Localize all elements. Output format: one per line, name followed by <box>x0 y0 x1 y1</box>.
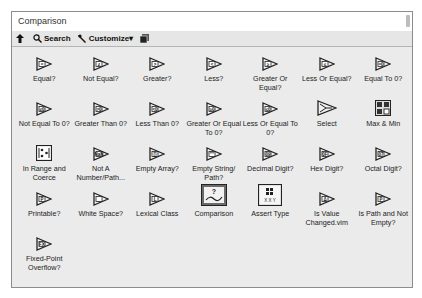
palette-item-fixed-point-overflow[interactable]: FXFixed-Point Overflow? <box>16 233 73 278</box>
svg-text:[]: [] <box>154 152 157 157</box>
palette-item-select[interactable]: Select <box>299 98 356 143</box>
palette-item-decimal-digit[interactable]: 09Decimal Digit? <box>242 143 299 188</box>
svg-text:<: < <box>210 62 213 67</box>
palette-item-label: Max & Min <box>355 119 411 128</box>
not-equal-icon: ≠ <box>93 53 109 71</box>
assert-type-icon: X X Y <box>258 188 282 206</box>
palette-item-not-equal[interactable]: ≠Not Equal? <box>73 53 130 98</box>
is-value-changed-icon: Δ <box>319 188 335 206</box>
svg-text:=: = <box>41 62 44 67</box>
palette-item-label: Not Equal? <box>73 74 129 83</box>
palette-item-label: Not Equal To 0? <box>16 119 72 128</box>
fixed-point-overflow-icon: FX <box>36 233 52 251</box>
equal-to-zero-icon: =0 <box>375 53 391 71</box>
decimal-digit-icon: 09 <box>262 143 278 161</box>
less-than-zero-icon: <0 <box>149 98 165 116</box>
svg-text:=0: =0 <box>379 62 385 67</box>
palette-item-label: White Space? <box>73 209 129 218</box>
palette-item-label: Decimal Digit? <box>242 164 298 173</box>
title-bar: Comparison <box>12 12 412 32</box>
palette-item-not-equal-to-zero[interactable]: ≠0Not Equal To 0? <box>16 98 73 143</box>
palette-item-label: Is Path and Not Empty? <box>355 209 411 227</box>
search-icon <box>33 34 42 43</box>
lexical-class-icon: L <box>149 188 165 206</box>
palette-item-equal[interactable]: =Equal? <box>16 53 73 98</box>
greater-or-equal-icon: ≥ <box>262 53 278 71</box>
greater-or-equal-zero-icon: ≥0 <box>206 98 222 116</box>
palette-item-greater[interactable]: >Greater? <box>129 53 186 98</box>
palette-item-less-or-equal[interactable]: ≤Less Or Equal? <box>299 53 356 98</box>
palette-item-comparison-express[interactable]: ?Comparison <box>186 188 243 233</box>
palette-item-label: Less Than 0? <box>129 119 185 128</box>
palette-item-empty-string-path[interactable]: ""Empty String/ Path? <box>186 143 243 188</box>
palette-item-empty-array[interactable]: []Empty Array? <box>129 143 186 188</box>
svg-text:>: > <box>154 62 157 67</box>
palette-window: Comparison Search Customize▾ =Equal?≠Not… <box>11 11 413 288</box>
palette-item-label: Printable? <box>16 209 72 218</box>
not-equal-to-zero-icon: ≠0 <box>36 98 52 116</box>
palette-item-label: Octal Digit? <box>355 164 411 173</box>
svg-text:09: 09 <box>266 152 272 157</box>
svg-text:P: P <box>380 197 383 202</box>
svg-text:>0: >0 <box>96 107 102 112</box>
svg-text:L: L <box>154 197 157 202</box>
palette-item-less-or-equal-zero[interactable]: ≤0Less Or Equal To 0? <box>242 98 299 143</box>
svg-text:_: _ <box>96 197 100 202</box>
palette-item-label: Greater Or Equal? <box>242 74 298 92</box>
toolbar: Search Customize▾ <box>12 31 412 47</box>
svg-text:"": "" <box>210 152 214 157</box>
palette-item-label: Comparison <box>186 209 242 218</box>
palette-item-label: Empty String/ Path? <box>186 164 242 182</box>
palette-item-greater-than-zero[interactable]: >0Greater Than 0? <box>73 98 130 143</box>
palette-grid: =Equal?≠Not Equal?>Greater?<Less?≥Greate… <box>16 53 412 278</box>
palette-item-is-value-changed[interactable]: ΔIs Value Changed.vim <box>299 188 356 233</box>
svg-text:≥0: ≥0 <box>209 107 214 112</box>
less-icon: < <box>206 53 222 71</box>
customize-button[interactable]: Customize▾ <box>78 34 133 43</box>
window-title: Comparison <box>18 16 67 26</box>
svg-text:≠0: ≠0 <box>40 107 45 112</box>
palette-item-less[interactable]: <Less? <box>186 53 243 98</box>
palette-item-label: Hex Digit? <box>299 164 355 173</box>
palette-item-label: Select <box>299 119 355 128</box>
svg-text:NaN: NaN <box>94 152 103 157</box>
palette-item-greater-or-equal[interactable]: ≥Greater Or Equal? <box>242 53 299 98</box>
search-button[interactable]: Search <box>33 34 71 43</box>
palette-item-lexical-class[interactable]: LLexical Class <box>129 188 186 233</box>
palette-item-max-min[interactable]: Max & Min <box>355 98 412 143</box>
octal-digit-icon: 07 <box>375 143 391 161</box>
palette-item-in-range-coerce[interactable]: In Range and Coerce <box>16 143 73 188</box>
palette-item-assert-type[interactable]: X X YAssert Type <box>242 188 299 233</box>
empty-string-path-icon: "" <box>206 143 222 161</box>
palette-item-white-space[interactable]: _White Space? <box>73 188 130 233</box>
up-button[interactable] <box>16 34 26 43</box>
palette-item-label: Greater? <box>129 74 185 83</box>
palette-item-greater-or-equal-zero[interactable]: ≥0Greater Or Equal To 0? <box>186 98 243 143</box>
palette-item-label: Less Or Equal? <box>299 74 355 83</box>
palette-item-label: In Range and Coerce <box>16 164 72 182</box>
equal-icon: = <box>36 53 52 71</box>
is-path-not-empty-icon: P <box>375 188 391 206</box>
scrollbar[interactable] <box>406 15 410 27</box>
hex-digit-icon: 0F <box>319 143 335 161</box>
palette-item-not-a-number[interactable]: NaNNot A Number/Path... <box>73 143 130 188</box>
svg-text:<0: <0 <box>153 107 159 112</box>
svg-text:07: 07 <box>379 152 385 157</box>
empty-array-icon: [] <box>149 143 165 161</box>
palette-item-printable[interactable]: PPrintable? <box>16 188 73 233</box>
less-or-equal-icon: ≤ <box>319 53 335 71</box>
view-button[interactable] <box>140 34 151 43</box>
palette-view-icon <box>140 34 149 43</box>
palette-item-less-than-zero[interactable]: <0Less Than 0? <box>129 98 186 143</box>
palette-item-hex-digit[interactable]: 0FHex Digit? <box>299 143 356 188</box>
palette-item-label: Less? <box>186 74 242 83</box>
palette-item-equal-to-zero[interactable]: =0Equal To 0? <box>355 53 412 98</box>
palette-item-octal-digit[interactable]: 07Octal Digit? <box>355 143 412 188</box>
svg-text:P: P <box>41 197 44 202</box>
wrench-icon <box>78 34 87 43</box>
palette-item-label: Assert Type <box>242 209 298 218</box>
less-or-equal-zero-icon: ≤0 <box>262 98 278 116</box>
select-icon <box>317 98 337 116</box>
greater-icon: > <box>149 53 165 71</box>
palette-item-is-path-not-empty[interactable]: PIs Path and Not Empty? <box>355 188 412 233</box>
